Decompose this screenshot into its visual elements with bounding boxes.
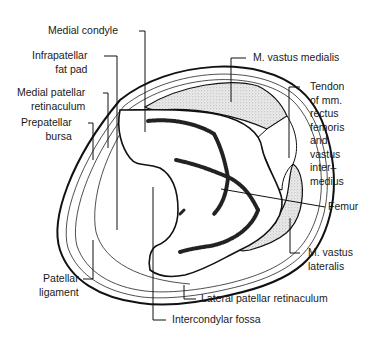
label-intercondylar-fossa: Intercondylar fossa <box>172 313 261 327</box>
femur-outline <box>119 110 282 277</box>
label-medial-condyle: Medial condyle <box>48 24 118 38</box>
label-m-vastus-lateralis: M. vastus lateralis <box>308 246 353 273</box>
label-infrapatellar-fat-pad: Infrapatellar fat pad <box>32 49 87 76</box>
label-patellar-ligament: Patellar ligament <box>39 272 79 299</box>
label-m-vastus-medialis: M. vastus medialis <box>253 51 339 65</box>
label-tendon-rectus-vastus: Tendon of mm. rectus femoris and vastus … <box>310 80 344 188</box>
label-prepatellar-bursa: Prepatellar bursa <box>21 116 72 143</box>
label-lateral-patellar-retinaculum: Lateral patellar retinaculum <box>201 292 328 306</box>
label-medial-patellar-retinaculum: Medial patellar retinaculum <box>17 86 85 113</box>
label-femur: Femur <box>328 200 358 214</box>
